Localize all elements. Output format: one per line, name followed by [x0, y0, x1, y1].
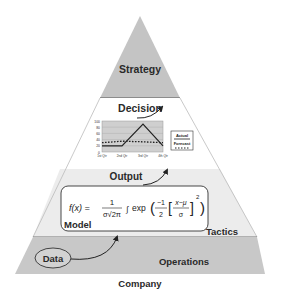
- eq-bracket-num: x−μ: [174, 199, 187, 207]
- y-tick: 40: [96, 138, 100, 142]
- x-tick: 1st Qtr: [97, 154, 108, 158]
- eq-inner-num: −1: [157, 199, 165, 206]
- pyramid-diagram: Strategy Tactics Operations Company Deci…: [0, 0, 281, 302]
- operations-label: Operations: [159, 256, 209, 267]
- decision-label: Decision: [118, 102, 162, 114]
- strategy-level: [100, 16, 180, 98]
- eq-exp: exp: [132, 203, 146, 213]
- x-tick: 2nd Qtr: [117, 154, 129, 158]
- svg-text:]: ]: [190, 200, 194, 216]
- data-label: Data: [43, 253, 64, 264]
- eq-bracket-den: σ: [179, 211, 184, 218]
- eq-inner-den: 2: [159, 211, 163, 218]
- svg-text:): ): [200, 199, 205, 216]
- y-tick: 20: [96, 144, 100, 148]
- legend-forecast: Forecast: [174, 141, 191, 146]
- company-label: Company: [118, 278, 162, 289]
- eq-frac-num: 1: [110, 198, 115, 207]
- strategy-label: Strategy: [119, 63, 161, 75]
- eq-frac-den: σ√2π: [103, 210, 121, 219]
- output-label: Output: [110, 171, 143, 182]
- tactics-label: Tactics: [206, 226, 238, 237]
- legend-actual: Actual: [176, 133, 188, 138]
- y-tick: 80: [96, 126, 100, 130]
- eq-lhs: f(x) =: [69, 203, 90, 213]
- x-tick: 4th Qtr: [158, 154, 169, 158]
- model-label: Model: [64, 219, 91, 230]
- svg-text:(: (: [150, 199, 155, 216]
- y-tick: 100: [94, 120, 100, 124]
- x-tick: 3rd Qtr: [138, 154, 149, 158]
- chart-legend: Actual Forecast: [171, 131, 193, 150]
- svg-text:[: [: [168, 200, 172, 216]
- y-tick: 60: [96, 132, 100, 136]
